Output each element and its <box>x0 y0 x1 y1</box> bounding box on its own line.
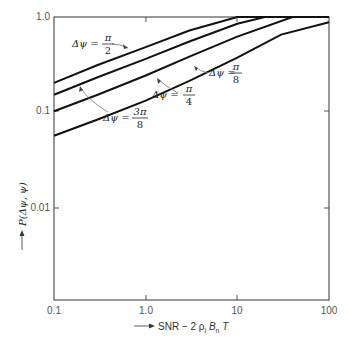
label-denominator: 4 <box>186 96 192 107</box>
x-axis-title: SNR − 2 ρi Bn T <box>134 321 229 334</box>
curve-label-pi-over-4: Δψ = π 4 <box>151 83 195 107</box>
curves <box>54 17 329 136</box>
y-axis-title-text: P(Δψ, ψ) <box>17 182 28 227</box>
delta-psi-text: Δψ = <box>208 67 236 78</box>
label-numerator: π <box>185 83 193 94</box>
label-denominator: 8 <box>137 119 143 130</box>
delta-psi-text: Δψ = <box>102 112 130 123</box>
label-denominator: 2 <box>105 45 111 56</box>
x-axis-title-text: SNR − 2 ρi Bn T <box>158 321 229 334</box>
y-tick-label: 0.01 <box>31 202 51 213</box>
x-tick-label: 1.0 <box>139 305 153 316</box>
label-numerator: π <box>232 61 240 72</box>
delta-psi-text: Δψ = <box>151 89 179 100</box>
plot-frame <box>54 17 329 300</box>
y-tick-label: 1.0 <box>36 11 50 22</box>
delta-psi-text: Δψ = <box>71 38 99 49</box>
y-tick-label: 0.1 <box>36 105 50 116</box>
curve-series-0 <box>54 17 329 83</box>
y-axis-title: P(Δψ, ψ) <box>17 182 28 250</box>
label-denominator: 8 <box>233 74 239 85</box>
label-numerator: 3π <box>134 106 147 117</box>
x-tick-label: 10 <box>231 305 243 316</box>
x-ticks: 0.1 1.0 10 100 <box>47 17 338 316</box>
chart: 1.0 0.1 0.01 0.1 1.0 10 100 Δψ = π 2 Δψ … <box>0 0 350 342</box>
x-tick-label: 0.1 <box>47 305 61 316</box>
label-numerator: π <box>104 32 112 43</box>
curve-label-pi-over-2: Δψ = π 2 <box>71 32 114 56</box>
x-tick-label: 100 <box>321 305 338 316</box>
